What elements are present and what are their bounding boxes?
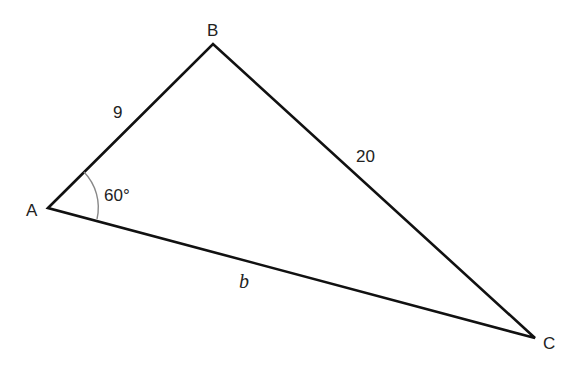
vertex-label-b: B — [207, 21, 218, 40]
triangle-diagram: A B C 9 20 b 60° — [0, 0, 578, 368]
side-label-ab: 9 — [113, 103, 122, 122]
side-label-bc: 20 — [356, 147, 375, 166]
angle-arc-a — [84, 172, 98, 219]
angle-label-a: 60° — [104, 186, 130, 205]
side-label-ac: b — [239, 270, 249, 292]
vertex-label-c: C — [543, 334, 555, 353]
vertex-label-a: A — [26, 201, 38, 220]
